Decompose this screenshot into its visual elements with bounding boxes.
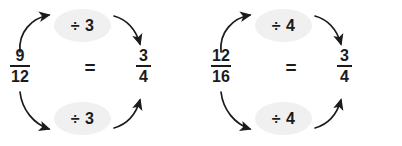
operation-pill-bottom: ÷ 3 <box>54 102 111 135</box>
equals-sign: = <box>78 58 102 77</box>
fraction-bar <box>337 65 352 67</box>
fraction-bar <box>136 65 151 67</box>
arrow-top-operation-to-result <box>315 16 341 44</box>
fraction-bar <box>211 65 231 67</box>
operation-pill-bottom: ÷ 4 <box>255 102 312 135</box>
fraction-numerator: 3 <box>339 47 350 64</box>
fraction-numerator: 12 <box>211 47 231 64</box>
start-fraction: 12 16 <box>211 47 231 86</box>
operation-label: ÷ 4 <box>272 111 296 127</box>
fraction-numerator: 9 <box>14 47 25 64</box>
arrow-top-operation-to-result <box>114 16 140 44</box>
arrow-bottom-operation-to-result <box>315 100 341 128</box>
equals-sign: = <box>279 58 303 77</box>
fraction-denominator: 16 <box>211 68 231 85</box>
fraction-denominator: 4 <box>339 68 350 85</box>
fraction-denominator: 4 <box>138 68 149 85</box>
arrow-bottom-operation-to-result <box>114 100 140 128</box>
fraction-bar <box>10 65 30 67</box>
result-fraction: 3 4 <box>337 47 352 86</box>
fraction-diagram-group-1: 9 12 = 3 4 ÷ 3 ÷ 3 <box>0 0 201 146</box>
fraction-denominator: 12 <box>10 68 30 85</box>
operation-label: ÷ 3 <box>71 18 95 34</box>
arrow-denominator-to-bottom-operation <box>221 92 250 129</box>
start-fraction: 9 12 <box>10 47 30 86</box>
fraction-numerator: 3 <box>138 47 149 64</box>
operation-label: ÷ 3 <box>71 111 95 127</box>
equivalent-fractions-diagram: 9 12 = 3 4 ÷ 3 ÷ 3 <box>0 0 402 146</box>
operation-label: ÷ 4 <box>272 18 296 34</box>
fraction-diagram-group-2: 12 16 = 3 4 ÷ 4 ÷ 4 <box>201 0 402 146</box>
operation-pill-top: ÷ 3 <box>54 9 111 42</box>
arrow-denominator-to-bottom-operation <box>20 92 49 129</box>
result-fraction: 3 4 <box>136 47 151 86</box>
operation-pill-top: ÷ 4 <box>255 9 312 42</box>
